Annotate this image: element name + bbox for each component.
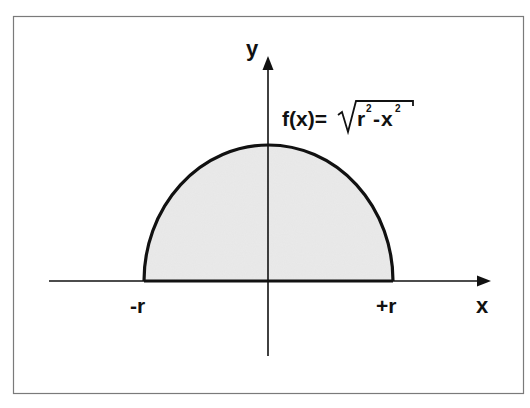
y-axis-label: y bbox=[246, 36, 259, 61]
formula-minus: - bbox=[373, 107, 380, 130]
x-axis-label: x bbox=[476, 293, 489, 318]
pos-r-label: +r bbox=[376, 294, 396, 317]
formula-r: r bbox=[357, 107, 365, 130]
semicircle-diagram: y x -r +r f(x)= r 2 - x 2 bbox=[0, 0, 530, 408]
formula-r-exponent: 2 bbox=[366, 103, 372, 114]
formula-x-exponent: 2 bbox=[395, 103, 401, 114]
formula-prefix: f(x)= bbox=[282, 107, 327, 130]
formula-x: x bbox=[381, 107, 393, 130]
neg-r-label: -r bbox=[130, 294, 145, 317]
